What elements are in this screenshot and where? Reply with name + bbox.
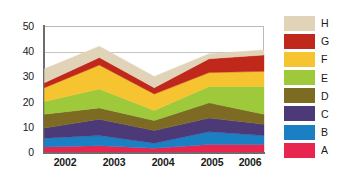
- legend-label: B: [321, 127, 328, 138]
- chart-legend: HGFEDCBA: [284, 16, 346, 158]
- legend-item-c[interactable]: C: [284, 106, 346, 121]
- legend-swatch-f: [284, 52, 315, 67]
- legend-label: D: [321, 91, 329, 102]
- legend-swatch-c: [284, 106, 315, 121]
- legend-label: F: [321, 54, 327, 65]
- legend-item-a[interactable]: A: [284, 143, 346, 158]
- stacked-area-chart: 50 40 30 20 10 0 2002 2003 2004 2005 200…: [0, 0, 348, 192]
- legend-label: E: [321, 73, 328, 84]
- legend-swatch-b: [284, 125, 315, 140]
- legend-label: H: [321, 18, 329, 29]
- legend-swatch-h: [284, 16, 315, 31]
- legend-label: A: [321, 145, 328, 156]
- legend-item-g[interactable]: G: [284, 34, 346, 49]
- legend-label: C: [321, 109, 329, 120]
- legend-swatch-a: [284, 143, 315, 158]
- legend-item-f[interactable]: F: [284, 52, 346, 67]
- legend-label: G: [321, 36, 329, 47]
- legend-swatch-e: [284, 70, 315, 85]
- legend-swatch-g: [284, 34, 315, 49]
- legend-item-d[interactable]: D: [284, 88, 346, 103]
- legend-item-h[interactable]: H: [284, 16, 346, 31]
- legend-item-e[interactable]: E: [284, 70, 346, 85]
- legend-swatch-d: [284, 88, 315, 103]
- legend-item-b[interactable]: B: [284, 125, 346, 140]
